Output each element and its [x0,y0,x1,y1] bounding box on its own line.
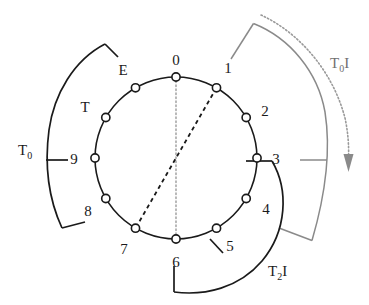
node-pc-11[interactable] [131,84,139,92]
node-label-pc-6: 6 [172,254,180,270]
node-label-pc-4: 4 [262,201,270,217]
node-pc-10[interactable] [102,113,110,121]
bracket-t2i-label-tail: I [282,263,287,279]
node-pc-2[interactable] [242,113,250,121]
chords [136,77,217,239]
bracket-t0i-tick-start [231,24,254,60]
node-label-pc-2: 2 [261,103,269,119]
clock-diagram: 0 1 2 3 4 5 6 7 8 9 T E T0 T0I T2I [0,0,369,305]
node-label-pc-1: 1 [224,60,232,76]
rotation-arrow-head [344,154,354,172]
node-pc-3[interactable] [253,154,261,162]
bracket-t0i-label-main: T [330,55,339,71]
node-pc-8[interactable] [102,194,110,202]
node-pc-5[interactable] [212,224,220,232]
node-label-pc-11: E [118,62,127,78]
node-label-pc-8: 8 [84,203,92,219]
bracket-t2i-label: T2I [268,263,287,282]
node-label-pc-0: 0 [172,52,180,68]
node-label-pc-5: 5 [226,238,234,254]
node-pc-7[interactable] [131,224,139,232]
node-label-pc-3: 3 [272,151,280,167]
bracket-t0i-label-tail: I [344,55,349,71]
node-label-pc-7: 7 [120,241,128,257]
node-label-pc-10: T [80,99,89,115]
node-pc-1[interactable] [212,84,220,92]
bracket-t0-tick-start [105,44,118,57]
bracket-t2i-arc [174,161,283,293]
node-pc-6[interactable] [172,235,180,243]
node-pc-9[interactable] [91,154,99,162]
rotation-arrow-path [261,15,349,157]
bracket-t0-label: T0 [18,142,32,161]
figure-root: 0 1 2 3 4 5 6 7 8 9 T E T0 T0I T2I [0,0,369,305]
node-label-pc-9: 9 [70,151,78,167]
bracket-t2i-label-main: T [268,263,277,279]
bracket-t0i-tick-end [279,228,312,241]
node-pc-0[interactable] [172,73,180,81]
bracket-t0-label-sub: 0 [27,150,32,161]
node-pc-4[interactable] [242,194,250,202]
bracket-t2i [174,161,283,293]
bracket-t0-arc [47,44,105,228]
bracket-t2i-tick-mid [210,239,223,253]
rotation-arrow [261,15,354,172]
bracket-t0-tick-end [62,222,85,228]
bracket-t0-label-main: T [18,142,27,158]
bracket-t0i-label: T0I [330,55,349,74]
bracket-labels: T0 T0I T2I [18,55,349,282]
